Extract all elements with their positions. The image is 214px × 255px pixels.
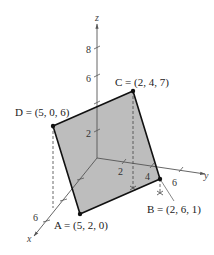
x-axis-label: x (26, 233, 32, 244)
point-B (158, 177, 162, 181)
point-D (51, 124, 55, 128)
point-B-label: B = (2, 6, 1) (147, 203, 201, 216)
point-C (131, 89, 135, 93)
y-tick-2: 2 (118, 166, 123, 177)
z-tick-2: 2 (86, 128, 91, 139)
point-A (78, 212, 82, 216)
z-axis-label: z (94, 12, 99, 23)
y-tick-6: 6 (172, 177, 177, 188)
z-tick-8: 8 (86, 44, 91, 55)
point-D-label: D = (5, 0, 6) (15, 106, 70, 119)
z-tick-6: 6 (86, 73, 91, 84)
y-tick-4: 4 (145, 171, 150, 182)
parallelogram-diagram: z y x 8 6 2 2 4 6 6 D = (5, 0, 6) C = (2… (0, 0, 214, 255)
x-tick-6: 6 (33, 212, 38, 223)
y-axis-label: y (203, 170, 209, 181)
point-A-label: A = (5, 2, 0) (54, 219, 108, 232)
point-C-label: C = (2, 4, 7) (115, 76, 169, 89)
